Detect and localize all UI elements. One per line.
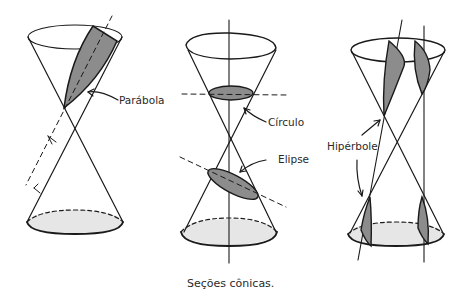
label-ellipse: Elipse xyxy=(278,153,309,165)
caption: Seções cônicas. xyxy=(187,277,274,290)
cone-parabola xyxy=(26,16,123,234)
label-hyperbole: Hipérbole xyxy=(327,140,378,152)
cone-circle-ellipse xyxy=(180,20,287,263)
label-circle: Círculo xyxy=(268,116,304,128)
conic-sections-diagram: Parábola Círculo Elipse Hipérbole Seções… xyxy=(0,0,468,293)
label-parabola: Parábola xyxy=(119,94,165,106)
